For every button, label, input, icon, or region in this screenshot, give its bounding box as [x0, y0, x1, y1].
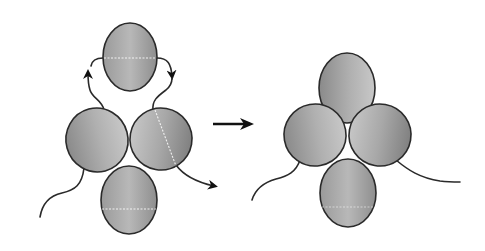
- link-right-up-connector: [153, 78, 172, 110]
- right-left-tail-line: [252, 160, 300, 200]
- left-state-group: [40, 23, 214, 234]
- arrow-right-outward: [176, 165, 214, 186]
- arrow-left-to-top: [88, 73, 104, 110]
- left-subunit-top: [103, 23, 157, 91]
- left-subunit-bottom: [101, 166, 157, 234]
- arrow-top-to-right: [157, 58, 172, 76]
- right-state-group: [252, 53, 460, 227]
- assembly-diagram: [0, 0, 485, 251]
- left-tail-line: [40, 168, 84, 217]
- right-right-tail-line: [396, 160, 460, 182]
- link-top-left-connector: [91, 58, 103, 66]
- right-subunit-bottom: [320, 159, 376, 227]
- left-subunit-right: [125, 103, 197, 175]
